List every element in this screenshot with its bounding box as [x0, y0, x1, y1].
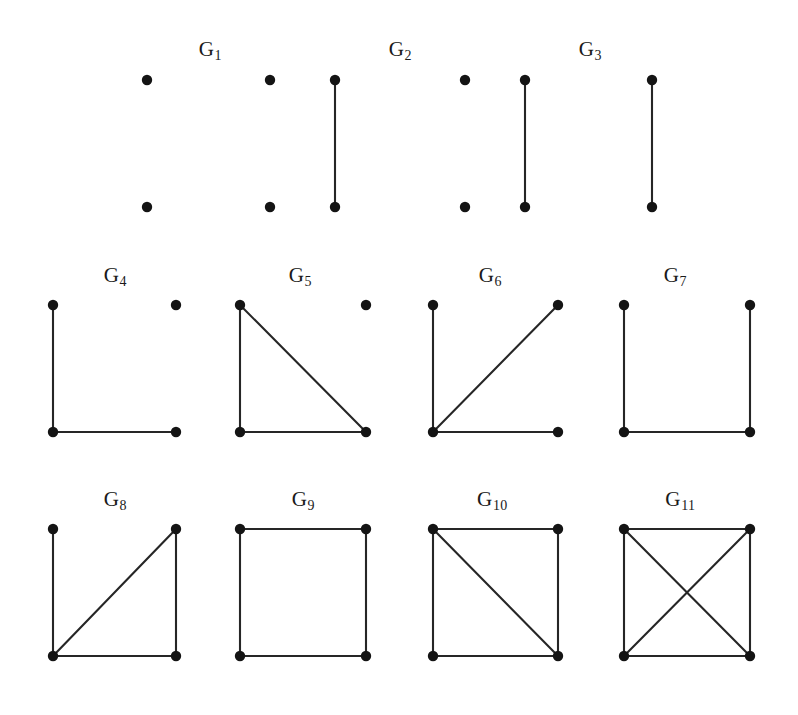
graph-vertex — [647, 202, 657, 212]
graph-label-subscript: 2 — [405, 48, 412, 63]
graph-label-base: G — [579, 37, 594, 61]
graph-label-subscript: 1 — [215, 48, 222, 63]
graph-label-subscript: 3 — [595, 48, 602, 63]
graph-vertex — [48, 300, 58, 310]
graph-edge — [433, 529, 558, 656]
graph-edge — [53, 529, 176, 656]
graph-vertex — [745, 651, 755, 661]
graph-label-base: G — [477, 487, 492, 511]
graph-g2b — [460, 75, 470, 212]
graph-g3b — [647, 75, 657, 212]
graph-label-base: G — [289, 263, 304, 287]
graph-vertex — [235, 300, 245, 310]
graph-vertex — [428, 524, 438, 534]
graph-g11 — [619, 524, 755, 661]
graph-g1 — [142, 75, 152, 212]
graph-label-subscript: 4 — [120, 274, 127, 289]
graph-vertex — [428, 300, 438, 310]
graph-vertex — [235, 524, 245, 534]
graph-label-base: G — [665, 487, 680, 511]
graph-label-subscript: 9 — [308, 498, 315, 513]
graph-edge — [240, 305, 366, 432]
graph-vertex — [48, 427, 58, 437]
graph-label-g4: G4 — [104, 263, 127, 288]
graph-vertex — [361, 651, 371, 661]
graph-vertex — [520, 202, 530, 212]
graph-label-g8: G8 — [104, 487, 127, 512]
graph-label-base: G — [199, 37, 214, 61]
graph-g4 — [48, 300, 181, 437]
graph-vertex — [460, 75, 470, 85]
graph-label-subscript: 11 — [681, 498, 695, 513]
graph-vertex — [142, 75, 152, 85]
graph-vertex — [647, 75, 657, 85]
graph-label-g10: G10 — [477, 487, 507, 512]
graph-vertex — [48, 651, 58, 661]
graph-label-subscript: 5 — [305, 274, 312, 289]
graph-label-g1: G1 — [199, 37, 222, 62]
graph-edge — [624, 529, 750, 656]
graph-vertex — [428, 651, 438, 661]
graph-vertex — [619, 524, 629, 534]
graph-vertex — [553, 524, 563, 534]
graph-vertex — [553, 300, 563, 310]
graph-vertex — [428, 427, 438, 437]
graph-vertex — [361, 524, 371, 534]
graph-vertex — [361, 427, 371, 437]
graph-label-g9: G9 — [292, 487, 315, 512]
graph-g3a — [520, 75, 530, 212]
graph-vertex — [265, 75, 275, 85]
graph-vertex — [235, 427, 245, 437]
graph-g7 — [619, 300, 755, 437]
graph-vertex — [142, 202, 152, 212]
graph-vertex — [330, 75, 340, 85]
graph-label-subscript: 10 — [493, 498, 507, 513]
graph-label-base: G — [104, 487, 119, 511]
graph-vertex — [265, 202, 275, 212]
graph-vertex — [48, 524, 58, 534]
graph-vertex — [171, 427, 181, 437]
graph-vertex — [553, 427, 563, 437]
graph-g2a — [330, 75, 340, 212]
graph-label-subscript: 7 — [680, 274, 687, 289]
graph-label-g3: G3 — [579, 37, 602, 62]
graph-vertex — [520, 75, 530, 85]
graph-vertex — [235, 651, 245, 661]
graph-vertex — [745, 300, 755, 310]
graph-vertex — [619, 427, 629, 437]
graph-label-base: G — [292, 487, 307, 511]
graph-g5 — [235, 300, 371, 437]
graph-vertex — [619, 300, 629, 310]
graph-vertex — [619, 651, 629, 661]
graph-label-g2: G2 — [389, 37, 412, 62]
graph-g1b — [265, 75, 275, 212]
graph-label-g6: G6 — [479, 263, 502, 288]
graph-vertex — [330, 202, 340, 212]
graph-label-base: G — [479, 263, 494, 287]
graph-label-base: G — [104, 263, 119, 287]
graph-g10 — [428, 524, 563, 661]
graph-vertex — [171, 524, 181, 534]
graph-vertex — [171, 300, 181, 310]
graph-vertex — [745, 524, 755, 534]
graph-gallery-figure: G1G2G3G4G5G6G7G8G9G10G11 — [0, 0, 798, 715]
graph-label-g11: G11 — [665, 487, 694, 512]
graph-g6 — [428, 300, 563, 437]
graph-vertex — [171, 651, 181, 661]
graph-label-g5: G5 — [289, 263, 312, 288]
graph-vertex — [745, 427, 755, 437]
graph-edge — [433, 305, 558, 432]
graph-drawing-canvas — [0, 0, 798, 715]
graph-vertex — [361, 300, 371, 310]
graph-label-base: G — [664, 263, 679, 287]
graph-g9 — [235, 524, 371, 661]
graph-vertex — [553, 651, 563, 661]
graph-label-base: G — [389, 37, 404, 61]
graph-g8 — [48, 524, 181, 661]
graph-label-subscript: 8 — [120, 498, 127, 513]
graph-label-g7: G7 — [664, 263, 687, 288]
graph-label-subscript: 6 — [495, 274, 502, 289]
graph-vertex — [460, 202, 470, 212]
graph-edge — [624, 529, 750, 656]
